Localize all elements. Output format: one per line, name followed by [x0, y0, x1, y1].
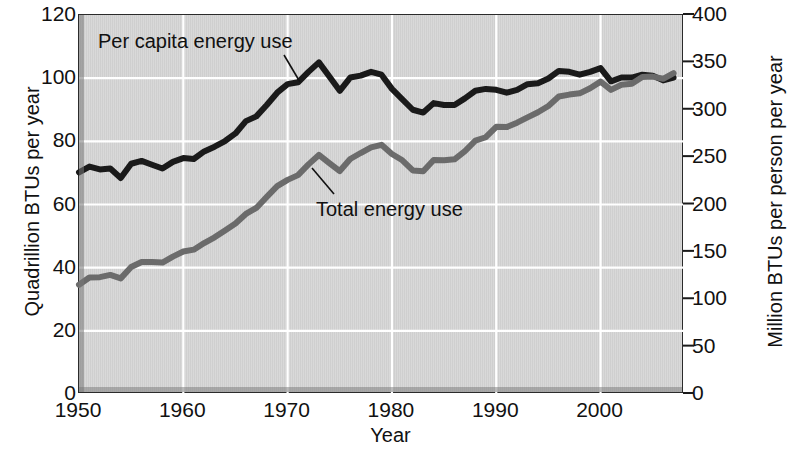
y-axis-right-title: Million BTUs per person per year	[764, 37, 787, 367]
x-axis-tick-label: 1960	[159, 398, 206, 422]
y-axis-left-title: Quadrillion BTUs per year	[21, 52, 44, 352]
x-axis-tick-label: 1990	[472, 398, 519, 422]
x-axis-tick-label: 1950	[55, 398, 102, 422]
leader-line-per-capita	[284, 55, 300, 82]
leader-line-total	[312, 168, 334, 194]
x-axis-tick-label: 1970	[263, 398, 310, 422]
x-axis-tick-label: 1980	[368, 398, 415, 422]
x-axis-tick-label: 2000	[576, 398, 623, 422]
x-axis-title: Year	[0, 424, 781, 447]
